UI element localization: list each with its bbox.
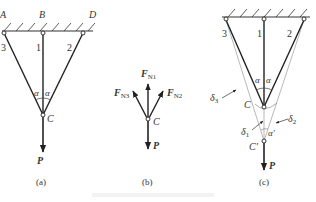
label-alpha-right: α: [266, 75, 271, 85]
label-delta1: δ1: [241, 126, 250, 139]
delta-pointers: [222, 90, 288, 130]
label-P: P: [37, 155, 44, 166]
label-delta3: δ3: [210, 92, 219, 105]
label-alpha-left: α: [255, 75, 260, 85]
label-alpha-left: α: [34, 88, 39, 98]
ceiling-hatch: [222, 9, 310, 17]
caption-b: (b): [142, 177, 153, 187]
label-C: C: [244, 99, 251, 110]
panel-b: FN1 FN3 FN2 C P (b): [113, 68, 183, 187]
label-FN2: FN2: [166, 87, 183, 100]
node-C: [146, 117, 150, 121]
label-D: D: [88, 9, 97, 20]
label-P: P: [269, 160, 276, 171]
label-bar-1: 1: [257, 28, 262, 39]
label-C-prime: C′: [249, 141, 259, 152]
label-bar-3: 3: [1, 42, 6, 53]
label-FN1: FN1: [140, 68, 157, 81]
label-delta2: δ2: [288, 113, 297, 126]
label-alpha-prime: α′: [268, 128, 276, 138]
label-FN3: FN3: [113, 87, 130, 100]
panel-c: 3 1 2 α α C δ3 δ1 δ2 α′ C′ P (c): [210, 9, 310, 187]
bar-2: [264, 20, 304, 107]
label-bar-2: 2: [67, 42, 72, 53]
truss-figure: A B D 3 1 2 α α C P (a) FN1 FN3 FN2 C P …: [0, 0, 316, 202]
caption-a: (a): [36, 177, 46, 187]
label-bar-3: 3: [222, 28, 227, 39]
label-P: P: [153, 140, 160, 151]
label-C: C: [153, 116, 160, 127]
ceiling-hatch: [2, 23, 95, 31]
force-FN2-arrow: [149, 91, 163, 118]
bar-2: [43, 33, 83, 115]
caption-c: (c): [259, 177, 269, 187]
label-A: A: [0, 9, 7, 20]
figure-svg: A B D 3 1 2 α α C P (a) FN1 FN3 FN2 C P …: [0, 0, 316, 202]
bars: [226, 20, 304, 107]
label-alpha-right: α: [45, 88, 50, 98]
label-C: C: [47, 113, 54, 124]
panel-a: A B D 3 1 2 α α C P (a): [0, 9, 97, 187]
force-FN3-arrow: [133, 91, 147, 118]
faint-figure-caption: [92, 193, 214, 197]
label-bar-1: 1: [36, 42, 41, 53]
label-B: B: [39, 9, 45, 20]
label-bar-2: 2: [287, 28, 292, 39]
